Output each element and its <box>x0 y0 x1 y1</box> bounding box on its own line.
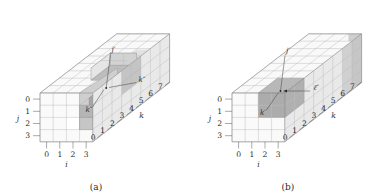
axis-i-a: 0 1 2 3 i <box>44 142 89 169</box>
axis-k-tick-7: 7 <box>158 82 163 91</box>
axis-k-tick-1: 1 <box>292 126 297 135</box>
axis-j-tick-2: 2 <box>25 119 30 128</box>
annotation-k-prime-b: k′ <box>260 108 266 117</box>
marked-point-a <box>105 87 107 89</box>
annotation-ell-dprime-b: ℓ″ <box>313 83 319 92</box>
axis-k-tick-2: 2 <box>110 119 115 128</box>
axis-j-tick-3: 3 <box>217 131 222 140</box>
axis-i-tick-2: 2 <box>71 150 76 159</box>
panel-a-drawing: 0 1 2 3 j 0 1 2 3 i <box>0 0 192 196</box>
axis-k-tick-6: 6 <box>340 89 345 98</box>
axis-j-b: 0 1 2 3 j <box>207 95 232 141</box>
axis-i-tick-3: 3 <box>84 150 89 159</box>
panel-b-drawing: 0 1 2 3 j 0 1 2 3 i <box>192 0 384 196</box>
axis-k-tick-1: 1 <box>100 126 105 135</box>
axis-k-tick-7: 7 <box>350 82 355 91</box>
axis-k-tick-3: 3 <box>120 111 125 120</box>
axis-k-tick-6: 6 <box>148 89 153 98</box>
axis-j-tick-2: 2 <box>217 119 222 128</box>
axis-i-label: i <box>257 160 260 169</box>
axis-i-b: 0 1 2 3 i <box>236 142 281 169</box>
axis-k-tick-2: 2 <box>302 119 307 128</box>
panel-b: 0 1 2 3 j 0 1 2 3 i <box>192 0 384 196</box>
annotation-k-dprime-right-a: k″ <box>138 75 145 84</box>
axis-i-tick-0: 0 <box>236 150 241 159</box>
axis-k-tick-0: 0 <box>91 133 96 142</box>
axis-j-a: 0 1 2 3 j <box>15 95 40 141</box>
axis-i-tick-1: 1 <box>249 150 254 159</box>
axis-i-tick-3: 3 <box>276 150 281 159</box>
axis-i-tick-1: 1 <box>57 150 62 159</box>
axis-k-tick-5: 5 <box>331 96 336 105</box>
axis-j-label: j <box>15 114 20 123</box>
panel-a: 0 1 2 3 j 0 1 2 3 i <box>0 0 192 196</box>
axis-k-tick-4: 4 <box>129 104 134 113</box>
axis-i-tick-2: 2 <box>263 150 268 159</box>
axis-i-tick-0: 0 <box>44 150 49 159</box>
front-face-b <box>232 93 285 142</box>
marked-point-b <box>280 90 282 92</box>
axis-k-tick-3: 3 <box>312 111 317 120</box>
axis-k-tick-0: 0 <box>283 133 288 142</box>
axis-k-label: k <box>331 111 336 120</box>
annotation-k-dprime-left-a: k″ <box>85 105 92 114</box>
axis-j-label: j <box>207 114 212 123</box>
axis-i-label: i <box>65 160 68 169</box>
panel-a-caption: (a) <box>0 182 192 192</box>
axis-j-tick-0: 0 <box>25 95 30 104</box>
axis-j-tick-3: 3 <box>25 131 30 140</box>
panel-b-caption: (b) <box>192 182 384 192</box>
axis-k-tick-4: 4 <box>321 104 326 113</box>
axis-j-tick-1: 1 <box>25 107 30 116</box>
axis-k-tick-5: 5 <box>139 96 144 105</box>
figure-two-panel-lattice: 0 1 2 3 j 0 1 2 3 i <box>0 0 384 196</box>
axis-k-label: k <box>139 111 144 120</box>
axis-j-tick-1: 1 <box>217 107 222 116</box>
axis-j-tick-0: 0 <box>217 95 222 104</box>
